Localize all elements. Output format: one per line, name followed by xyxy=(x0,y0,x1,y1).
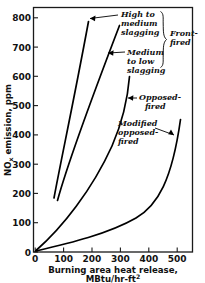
y-axis-title: NOx emission, ppm xyxy=(3,84,14,176)
x-axis-title-line2: MBtu/hr-ft2 xyxy=(86,273,141,283)
y-tick-label: 400 xyxy=(12,130,31,140)
x-tick-label: 100 xyxy=(54,254,73,264)
y-tick-label: 100 xyxy=(12,218,31,228)
y-axis-prefix: NO xyxy=(3,161,13,176)
x-tick-label: 500 xyxy=(168,254,187,264)
y-axis-title-text: NOx emission, ppm xyxy=(3,84,14,176)
y-tick-label: 500 xyxy=(12,101,31,111)
x-tick-label: 200 xyxy=(83,254,102,264)
annotation-line: fired xyxy=(117,136,139,146)
annotation-line: slagging xyxy=(121,27,160,37)
y-tick-label: 600 xyxy=(12,72,31,82)
annotation-line: slagging xyxy=(127,65,166,75)
x-axis-units: MBtu/hr-ft xyxy=(86,274,136,283)
chart-figure: 0 100 200 300 400 500 600 700 800 0 100 … xyxy=(0,0,205,283)
y-tick-labels: 0 100 200 300 400 500 600 700 800 xyxy=(12,13,31,257)
x-tick-label: 0 xyxy=(32,254,38,264)
y-tick-label: 0 xyxy=(25,248,31,258)
annotation-high-to-medium-slagging: High to medium slagging xyxy=(120,9,160,37)
y-tick-label: 700 xyxy=(12,43,31,53)
y-tick-label: 300 xyxy=(12,160,31,170)
x-tick-label: 300 xyxy=(111,254,130,264)
x-axis-units-exponent: 2 xyxy=(136,273,140,280)
annotation-line: fired xyxy=(144,101,166,111)
y-tick-label: 800 xyxy=(12,13,31,23)
annotation-line: fired xyxy=(169,37,191,47)
y-tick-label: 200 xyxy=(12,189,31,199)
x-tick-label: 400 xyxy=(139,254,158,264)
y-axis-suffix: emission, ppm xyxy=(3,84,13,157)
